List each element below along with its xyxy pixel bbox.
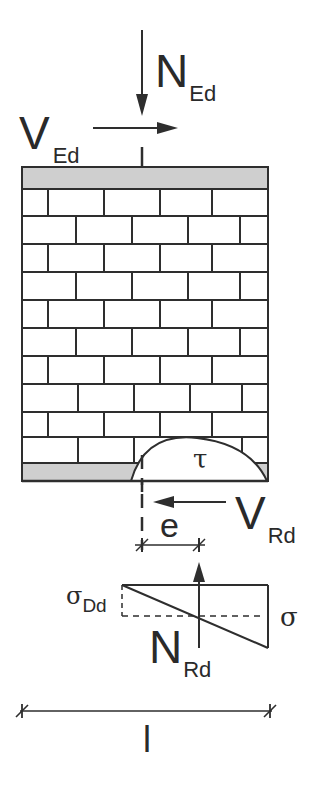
wall-length-dimension bbox=[16, 704, 276, 718]
normal-stress-label: σ bbox=[280, 604, 298, 630]
shear-load-arrow bbox=[93, 122, 178, 134]
axial-resistance-label: NRd bbox=[149, 624, 210, 670]
shear-stress-label: τ bbox=[193, 446, 207, 472]
axial-load-arrow bbox=[136, 30, 148, 116]
shear-load-label: VEd bbox=[19, 110, 77, 156]
masonry-wall bbox=[22, 167, 268, 500]
top-bond-beam bbox=[22, 167, 268, 189]
design-compressive-stress-label: σDd bbox=[66, 584, 107, 608]
eccentricity-label: e bbox=[160, 508, 179, 542]
axial-load-label: NEd bbox=[155, 48, 215, 94]
shear-resistance-label: VRd bbox=[235, 490, 294, 536]
wall-length-label: l bbox=[143, 722, 151, 758]
